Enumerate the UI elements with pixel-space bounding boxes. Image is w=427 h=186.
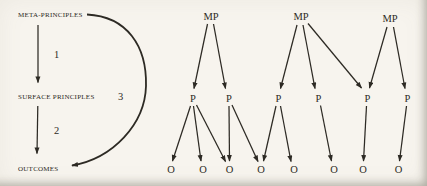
mp-node-1: MP	[203, 11, 218, 22]
mp-node-3: MP	[382, 13, 397, 24]
o-node-5: O	[290, 164, 298, 175]
o-node-3: O	[226, 164, 234, 175]
curved-arrow-meta-to-outcomes	[72, 15, 146, 166]
p-node-5: P	[365, 93, 371, 104]
p-node-4: P	[316, 93, 322, 104]
mp-node-2: MP	[293, 11, 308, 22]
arrow-surface-to-outcomes	[37, 106, 38, 154]
o-node-6: O	[330, 164, 338, 175]
arrow-p5-o7	[364, 106, 367, 161]
surface-principles-label: SURFACE PRINCIPLES	[18, 93, 95, 101]
p-node-3: P	[276, 93, 282, 104]
arrow-p6-o8	[400, 106, 407, 161]
outcomes-label: OUTCOMES	[18, 165, 59, 173]
arrow-p2-o3	[229, 106, 230, 161]
arrow-mp3-p5	[370, 27, 388, 88]
arrow-p4-o6	[321, 106, 332, 162]
arrow-mp2-p3	[281, 25, 298, 89]
left-panel: META-PRINCIPLES 1 SURFACE PRINCIPLES 2 O…	[18, 11, 146, 173]
o-node-7: O	[359, 164, 367, 175]
o-node-8: O	[395, 164, 403, 175]
edge-1-label: 1	[54, 49, 59, 60]
scanned-figure-page: META-PRINCIPLES 1 SURFACE PRINCIPLES 2 O…	[0, 0, 427, 186]
o-node-2: O	[199, 164, 207, 175]
edge-2-label: 2	[54, 125, 59, 136]
edge-3-label: 3	[118, 91, 123, 102]
arrow-mp1-p2	[214, 24, 226, 89]
meta-principles-label: META-PRINCIPLES	[18, 11, 83, 19]
arrow-p3-o4	[264, 106, 277, 161]
p-node-1: P	[190, 93, 196, 104]
arrow-mp1-p1	[194, 24, 208, 89]
o-node-4: O	[257, 164, 265, 175]
arrow-mp2-p5	[308, 24, 362, 89]
arrow-p1-o2	[194, 106, 202, 161]
right-panel: MP MP MP P P P P P P	[167, 11, 410, 175]
arrow-mp2-p4	[303, 25, 315, 89]
o-node-1: O	[167, 164, 175, 175]
arrow-p1-o1	[173, 106, 191, 161]
arrow-p3-o5	[281, 106, 292, 162]
p-node-6: P	[405, 93, 411, 104]
arrow-p1-o3	[197, 105, 226, 162]
arrow-p2-o4	[232, 105, 258, 162]
diagram-svg: META-PRINCIPLES 1 SURFACE PRINCIPLES 2 O…	[0, 0, 427, 186]
arrow-mp3-p6	[394, 27, 406, 89]
p-node-2: P	[226, 93, 232, 104]
